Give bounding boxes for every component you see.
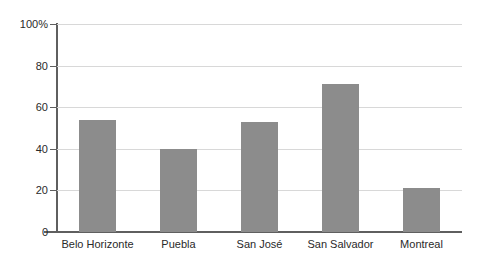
y-axis-tick (50, 66, 56, 67)
y-axis-tick (50, 149, 56, 150)
y-axis-labels: 100%806040200 (0, 0, 48, 267)
gridline (57, 107, 462, 108)
y-axis-tick (50, 232, 56, 233)
y-axis-tick-label: 80 (4, 60, 48, 71)
y-axis-tick-label: 60 (4, 102, 48, 113)
bar (322, 84, 359, 232)
gridline (57, 24, 462, 25)
bar (79, 120, 116, 232)
x-axis-category-label: Belo Horizonte (61, 239, 133, 250)
x-axis-category-label: San Salvador (307, 239, 373, 250)
bar (403, 188, 440, 232)
y-axis-tick (50, 190, 56, 191)
bar (160, 149, 197, 232)
x-axis-category-label: Montreal (400, 239, 443, 250)
y-axis-tick (50, 24, 56, 25)
y-axis-tick-label: 100% (4, 19, 48, 30)
x-axis-category-label: San José (237, 239, 283, 250)
y-axis-tick-label: 0 (4, 227, 48, 238)
bar-chart: 100%806040200 Belo HorizontePueblaSan Jo… (0, 0, 482, 267)
y-axis-tick-label: 20 (4, 185, 48, 196)
x-axis-category-label: Puebla (161, 239, 195, 250)
plot-area (57, 24, 462, 232)
y-axis-tick (50, 107, 56, 108)
y-axis-tick-label: 40 (4, 143, 48, 154)
bar (241, 122, 278, 232)
gridline (57, 66, 462, 67)
